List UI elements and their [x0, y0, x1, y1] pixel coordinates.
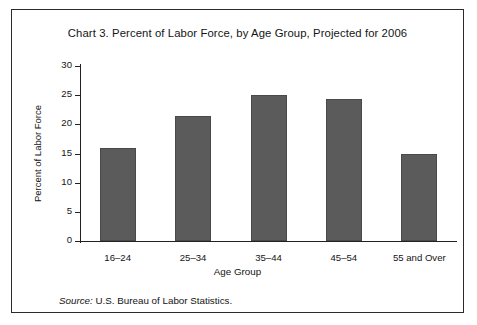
- y-axis-tick-mark: [75, 183, 80, 184]
- y-axis-tick-label: 10: [61, 176, 72, 187]
- y-axis-tick-mark: [75, 154, 80, 155]
- x-axis-tick-label: 35–44: [231, 252, 306, 263]
- y-axis-tick-mark: [75, 241, 80, 242]
- y-axis-title: Percent of Labor Force: [31, 66, 45, 241]
- source-label: Source:: [59, 295, 93, 306]
- y-axis-tick-label: 0: [67, 234, 72, 245]
- plot-area: 051015202530 16–2425–3435–4445–5455 and …: [80, 66, 457, 241]
- x-axis-title: Age Group: [12, 266, 463, 277]
- y-axis-tick-mark: [75, 212, 80, 213]
- y-axis-tick-label: 30: [61, 59, 72, 70]
- page-title: Chart 3. Percent of Labor Force, by Age …: [12, 27, 463, 39]
- y-axis-tick-label: 5: [67, 205, 72, 216]
- y-axis-tick-label: 25: [61, 88, 72, 99]
- y-axis-tick-mark: [75, 66, 80, 67]
- source-note: Source: U.S. Bureau of Labor Statistics.: [59, 295, 232, 306]
- x-axis-tick-label: 25–34: [155, 252, 230, 263]
- x-axis-line: [80, 241, 457, 242]
- bar: [401, 154, 437, 242]
- x-axis-tick-label: 45–54: [306, 252, 381, 263]
- chart-figure-frame: Chart 3. Percent of Labor Force, by Age …: [11, 9, 464, 313]
- y-axis-tick-label: 15: [61, 147, 72, 158]
- bar: [100, 148, 136, 241]
- y-axis-tick-mark: [75, 95, 80, 96]
- bar: [326, 99, 362, 241]
- source-text: U.S. Bureau of Labor Statistics.: [96, 295, 233, 306]
- x-axis-tick-label: 55 and Over: [382, 252, 457, 263]
- y-axis-line: [80, 64, 81, 243]
- x-axis-tick-label: 16–24: [80, 252, 155, 263]
- bar: [175, 116, 211, 241]
- y-axis-tick-label: 20: [61, 117, 72, 128]
- bar: [251, 95, 287, 241]
- y-axis-tick-mark: [75, 124, 80, 125]
